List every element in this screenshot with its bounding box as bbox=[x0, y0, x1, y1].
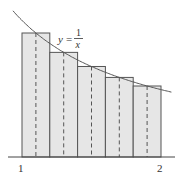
x-tick-label-2: 2 bbox=[157, 162, 163, 174]
function-label-numerator: 1 bbox=[76, 27, 81, 38]
function-label: y = 1 x bbox=[57, 27, 83, 50]
midpoint-rule-diagram: y = 1 x 1 2 bbox=[0, 0, 185, 184]
function-label-equals: = bbox=[66, 33, 72, 45]
function-label-denominator: x bbox=[75, 39, 81, 50]
x-tick-label-1: 1 bbox=[18, 162, 24, 174]
function-label-y: y bbox=[57, 33, 63, 45]
rectangle-4 bbox=[105, 77, 133, 157]
